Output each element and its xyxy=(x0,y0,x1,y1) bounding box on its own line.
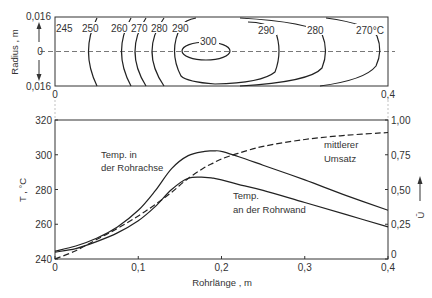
upper-y-axis-label: Radius , m xyxy=(9,29,20,74)
annotation-conversion-line2: Umsatz xyxy=(324,153,356,164)
contour-label-280-right: 280 xyxy=(307,25,324,36)
contour-label-290-right: 290 xyxy=(258,25,275,36)
radius-up-arrow-icon xyxy=(37,22,42,42)
contour-label-300: 300 xyxy=(200,36,217,47)
right-y-ticks: 00,250,500,751,00 xyxy=(385,115,411,260)
conversion-axis-label: Ū xyxy=(415,211,426,218)
contour-label-260: 260 xyxy=(111,23,128,34)
contour-label-290: 290 xyxy=(172,23,189,34)
x-axis-label: Rohrlänge , m xyxy=(192,277,252,288)
upper-ytick-mid: 0 xyxy=(37,46,43,57)
contour-label-280: 280 xyxy=(151,23,168,34)
left-tick-label: 240 xyxy=(35,254,52,265)
annotation-conversion-line1: mittlerer xyxy=(324,139,358,150)
curve-temp-wall xyxy=(55,177,388,252)
right-tick-label: 0,50 xyxy=(391,185,411,196)
contour-label-250: 250 xyxy=(82,23,99,34)
right-tick-label: 0,25 xyxy=(391,219,411,230)
x-tick-label: 0,4 xyxy=(381,262,395,273)
annotation-axis-temp-line2: der Rohrachse xyxy=(101,162,163,173)
x-tick-label: 0,3 xyxy=(298,262,312,273)
annotation-wall-temp-line1: Temp. xyxy=(233,190,259,201)
upper-contour-plot: 0,016 0 0,016 Radius , m 0 0,4 245 xyxy=(9,11,395,118)
annotation-wall-temp-line2: an der Rohrwand xyxy=(233,204,306,215)
upper-xtick-left: 0 xyxy=(52,89,58,100)
figure: 0,016 0 0,016 Radius , m 0 0,4 245 xyxy=(0,0,432,298)
left-tick-label: 300 xyxy=(35,150,52,161)
contour-label-270: 270 xyxy=(131,23,148,34)
x-tick-label: 0,1 xyxy=(131,262,145,273)
left-y-axis-label: T , °C xyxy=(17,178,28,202)
upper-ytick-top: 0,016 xyxy=(26,11,51,22)
right-tick-label: 0 xyxy=(391,249,397,260)
right-tick-label: 0,75 xyxy=(391,150,411,161)
right-tick-label: 1,00 xyxy=(391,115,411,126)
contour-label-270-right: 270°C xyxy=(356,25,384,36)
x-tick-label: 0 xyxy=(52,262,58,273)
up-arrow-icon xyxy=(418,176,423,184)
left-tick-label: 280 xyxy=(35,185,52,196)
x-tick-label: 0,2 xyxy=(215,262,229,273)
left-tick-label: 320 xyxy=(35,115,52,126)
contour-label-245: 245 xyxy=(56,23,73,34)
upper-ytick-bottom: 0,016 xyxy=(26,81,51,92)
left-tick-label: 260 xyxy=(35,219,52,230)
lower-line-plot: 240260280300320 00,250,500,751,00 00,10,… xyxy=(17,115,426,288)
right-y-axis-label: Ū xyxy=(415,176,426,218)
annotation-axis-temp-line1: Temp. in xyxy=(101,149,137,160)
radius-down-arrow-icon xyxy=(37,60,42,81)
upper-xtick-right: 0,4 xyxy=(381,89,395,100)
